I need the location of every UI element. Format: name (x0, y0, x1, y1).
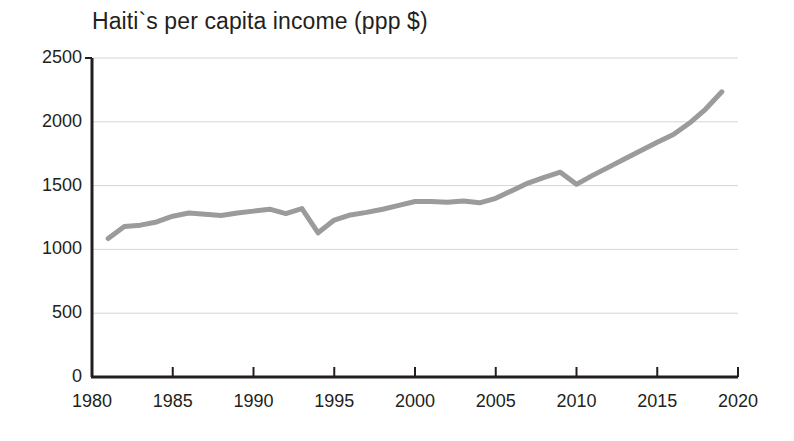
y-axis-tick-label: 1500 (0, 175, 82, 196)
line-chart-plot (0, 0, 794, 441)
data-series-group (108, 92, 722, 239)
x-axis-tick-label: 2020 (698, 391, 778, 412)
x-axis-tick-label: 1980 (52, 391, 132, 412)
chart-container: Haiti`s per capita income (ppp $) 050010… (0, 0, 794, 441)
x-axis-tick-label: 2000 (375, 391, 455, 412)
x-axis-tick-label: 2010 (537, 391, 617, 412)
x-axis-tick-label: 1985 (133, 391, 213, 412)
y-axis-tick-label: 1000 (0, 238, 82, 259)
gridlines-group (92, 58, 738, 313)
x-axis-tick-label: 2015 (617, 391, 697, 412)
y-axis-tick-label: 2000 (0, 111, 82, 132)
x-axis-tick-label: 1995 (294, 391, 374, 412)
data-line (108, 92, 722, 239)
y-axis-tick-label: 500 (0, 302, 82, 323)
axis-lines-group (85, 58, 738, 377)
x-axis-tick-label: 1990 (214, 391, 294, 412)
x-axis-tick-label: 2005 (456, 391, 536, 412)
y-axis-tick-label: 0 (0, 366, 82, 387)
y-axis-tick-label: 2500 (0, 47, 82, 68)
